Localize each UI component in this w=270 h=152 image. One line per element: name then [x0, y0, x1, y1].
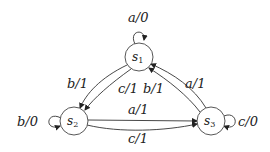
edge-s1-s1: [133, 32, 144, 44]
label-s2-s3-a: a/1: [128, 102, 148, 117]
label-s1-s1: a/0: [128, 10, 148, 25]
edge-s2-s2: [49, 116, 61, 127]
label-s3-s3: c/0: [238, 114, 258, 129]
edge-s2-s3-c: [87, 124, 197, 130]
node-s2: s2: [60, 107, 88, 135]
label-s1-s2-c: c/1: [118, 81, 138, 96]
edge-s3-s3: [224, 115, 235, 127]
label-s3-s1-a: a/1: [185, 76, 205, 91]
state-diagram: s1 s2 s3 a/0 b/1 c/1 b/1 a/1 b/0 a/1 c/1…: [0, 0, 270, 152]
node-s3: s3: [197, 107, 225, 135]
label-s2-s2: b/0: [17, 114, 38, 129]
node-s1: s1: [125, 43, 153, 71]
edge-s2-s3-a: [88, 120, 197, 121]
label-s3-s1-b: b/1: [143, 81, 164, 96]
label-s2-s3-c: c/1: [128, 131, 148, 146]
label-s1-s2-b: b/1: [67, 76, 88, 91]
